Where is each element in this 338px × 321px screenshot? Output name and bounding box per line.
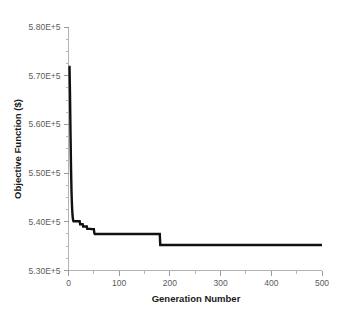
x-tick-label: 0 xyxy=(66,278,71,288)
y-tick-label: 5.30E+5 xyxy=(29,266,61,276)
objective-function-convergence-chart: 5.30E+55.40E+55.50E+55.60E+55.70E+55.80E… xyxy=(0,0,338,321)
chart-figure: 5.30E+55.40E+55.50E+55.60E+55.70E+55.80E… xyxy=(0,0,338,321)
y-tick-label: 5.50E+5 xyxy=(29,168,61,178)
y-tick-label: 5.40E+5 xyxy=(29,217,61,227)
y-tick-label: 5.80E+5 xyxy=(29,22,61,32)
x-axis-title: Generation Number xyxy=(152,293,241,304)
x-tick-label: 100 xyxy=(112,278,126,288)
y-axis-title: Objective Function ($) xyxy=(12,99,23,199)
x-tick-label: 200 xyxy=(163,278,177,288)
x-tick-label: 500 xyxy=(315,278,329,288)
y-tick-label: 5.70E+5 xyxy=(29,71,61,81)
x-tick-label: 300 xyxy=(214,278,228,288)
y-tick-label: 5.60E+5 xyxy=(29,119,61,129)
x-tick-label: 400 xyxy=(264,278,278,288)
